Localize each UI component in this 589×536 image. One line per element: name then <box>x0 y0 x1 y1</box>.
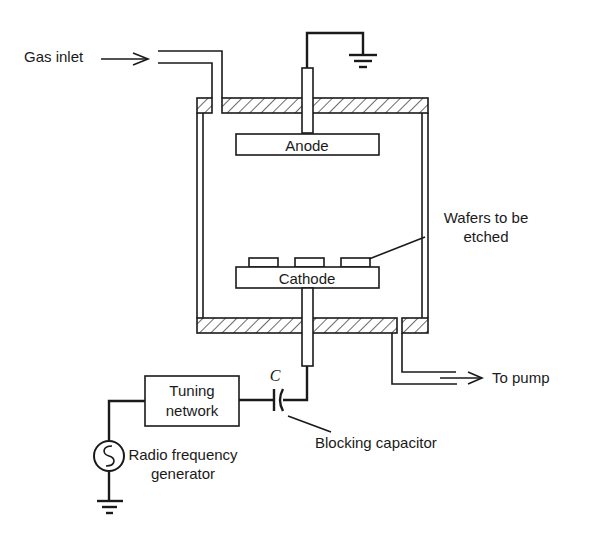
blocking-capacitor-label: Blocking capacitor <box>315 434 437 451</box>
wafers-label-line1: Wafers to be <box>444 209 528 226</box>
capacitor-leader <box>288 416 331 432</box>
plasma-reactor-diagram: Gas inlet Anode <box>0 0 589 536</box>
anode-assembly: Anode <box>236 33 379 155</box>
wafers-label-line2: etched <box>463 228 508 245</box>
cathode-wire <box>283 366 307 400</box>
rf-circuit: C Blocking capacitor Tuning network Radi… <box>94 366 437 513</box>
arrow-right-icon <box>440 372 482 384</box>
anode-label: Anode <box>285 137 328 154</box>
wafers-annotation: Wafers to be etched <box>369 209 528 259</box>
cathode-feedthrough <box>302 288 313 366</box>
generator-wire <box>109 401 145 442</box>
pump-outlet: To pump <box>392 333 550 386</box>
ground-icon <box>97 501 123 513</box>
arrow-right-icon <box>101 53 148 65</box>
wafer <box>341 258 370 267</box>
ground-icon <box>349 55 377 67</box>
tuning-label-line2: network <box>166 402 219 419</box>
tuning-label-line1: Tuning <box>169 382 214 399</box>
ac-source-icon <box>94 441 124 471</box>
to-pump-label: To pump <box>492 369 550 386</box>
rf-label-line2: generator <box>151 465 215 482</box>
gas-inlet: Gas inlet <box>24 48 222 98</box>
cathode-label: Cathode <box>279 270 336 287</box>
anode-ground-wire <box>307 33 363 68</box>
gas-inlet-label: Gas inlet <box>24 48 84 65</box>
capacitor-symbol-label: C <box>270 367 281 384</box>
rf-label-line1: Radio frequency <box>128 446 238 463</box>
capacitor-icon <box>274 389 283 411</box>
leader-line <box>369 237 425 259</box>
wafer <box>249 258 278 267</box>
anode-feedthrough <box>302 68 313 133</box>
gas-inlet-pipe <box>158 51 222 98</box>
wafer <box>295 258 324 267</box>
cathode-assembly: Cathode <box>236 258 379 366</box>
